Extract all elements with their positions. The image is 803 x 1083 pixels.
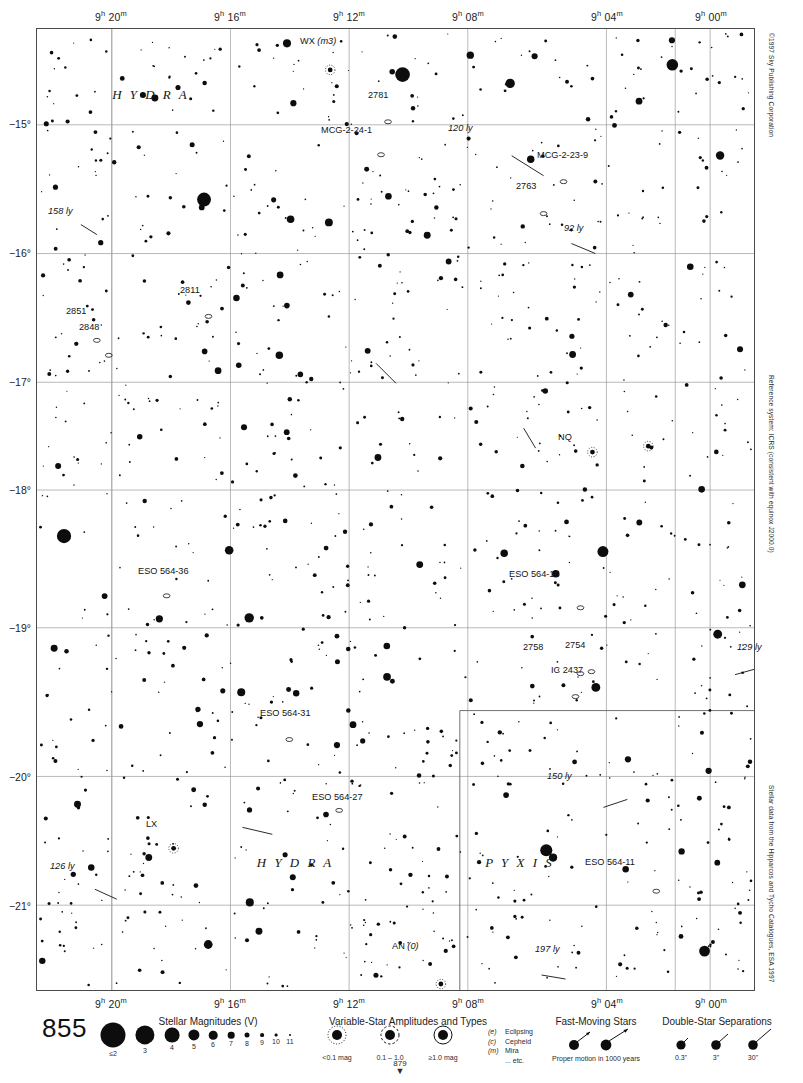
legend-doublestar-symbols xyxy=(668,1027,772,1057)
object-label-distance-17: 129 ly xyxy=(737,642,762,652)
dec-tick-19: −19° xyxy=(0,622,31,634)
legend-variable-symbol-2 xyxy=(432,1024,454,1050)
object-label-galaxy-14: 2758 xyxy=(523,642,543,652)
legend-variable-types: (e)Eclipsing(c)Cepheid(m)Mira... etc. xyxy=(488,1027,533,1065)
legend-magnitude-dot-0 xyxy=(101,1023,126,1048)
object-label-galaxy-2: MCG-2-24-1 xyxy=(321,125,372,135)
legend-doublestar-label-1: 3" xyxy=(713,1054,719,1061)
object-label-variable-star-21: LX xyxy=(146,819,157,829)
annotated-stars xyxy=(81,65,754,989)
dec-tick-15: −15° xyxy=(0,118,31,130)
constellation-name-0: H Y D R A xyxy=(111,87,189,102)
dec-tick-20: −20° xyxy=(0,771,31,783)
object-label-galaxy-12: ESO 564-36 xyxy=(138,566,189,576)
object-label-galaxy-5: 2763 xyxy=(516,181,536,191)
legend-magnitude-dot-9 xyxy=(289,1034,291,1036)
star-chart-frame: H Y D R AH Y D R AP Y X I S xyxy=(36,28,755,991)
constellation-names: H Y D R AH Y D R AP Y X I S xyxy=(111,87,554,870)
dec-tick-21: −21° xyxy=(0,900,31,912)
legend-magnitude-dot-3 xyxy=(188,1029,199,1040)
legend-variable-type-3: ... etc. xyxy=(488,1056,533,1066)
copyright-credit: ©1997 Sky Publishing Corporation xyxy=(768,33,775,137)
legend-fastmoving-symbols xyxy=(562,1027,636,1057)
object-label-galaxy-22: ESO 564-11 xyxy=(585,857,635,867)
legend-magnitude-label-3: 5 xyxy=(192,1043,196,1050)
legend-variable-type-1: (c)Cepheid xyxy=(488,1037,533,1047)
legend-magnitude-label-2: 4 xyxy=(170,1044,174,1051)
next-chart-pointer: 879 ▼ xyxy=(393,1059,406,1075)
legend-magnitude-dot-1 xyxy=(135,1025,154,1044)
starfield: H Y D R AH Y D R AP Y X I S xyxy=(37,29,754,990)
ra-tick-top-04: 9h 04m xyxy=(591,9,623,23)
legend-magnitude-label-7: 9 xyxy=(260,1039,264,1046)
legend-variable-type-0: (e)Eclipsing xyxy=(488,1027,533,1037)
legend-magnitude-dot-8 xyxy=(275,1034,278,1037)
object-label-variable-star-0: WX (m3) xyxy=(300,36,336,46)
legend-doublestar-label-2: 30" xyxy=(748,1054,758,1061)
object-label-galaxy-9: 2851 xyxy=(66,306,86,316)
data-source-credit: Stellar data from the Hipparcos and Tych… xyxy=(768,785,775,982)
legend-magnitude-dot-6 xyxy=(245,1033,250,1038)
dec-tick-18: −18° xyxy=(0,484,31,496)
legend-magnitudes-title: Stellar Magnitudes (V) xyxy=(159,1016,258,1027)
legend-magnitude-label-0: ≤2 xyxy=(109,1050,117,1057)
ra-tick-top-00: 9h 00m xyxy=(695,9,727,23)
legend-magnitude-dot-4 xyxy=(209,1031,218,1040)
object-label-distance-3: 120 ly xyxy=(448,123,473,133)
dec-tick-16: −16° xyxy=(0,247,31,259)
ra-tick-top-16: 9h 16m xyxy=(214,9,246,23)
object-label-galaxy-8: 2811 xyxy=(180,285,200,295)
legend-variable-symbol-1 xyxy=(379,1024,401,1050)
legend-magnitude-label-1: 3 xyxy=(143,1047,147,1054)
ra-tick-top-12: 9h 12m xyxy=(333,9,365,23)
object-label-galaxy-13: ESO 564-15 xyxy=(509,569,560,579)
legend-magnitude-label-4: 6 xyxy=(211,1041,215,1048)
constellation-name-1: H Y D R A xyxy=(256,855,334,870)
ra-tick-top-20: 9h 20m xyxy=(95,9,127,23)
object-label-distance-19: 150 ly xyxy=(547,771,572,781)
legend-fastmoving-caption: Proper motion in 1000 years xyxy=(552,1055,640,1062)
object-label-galaxy-20: ESO 564-27 xyxy=(312,792,363,802)
object-label-galaxy-10: 2848 xyxy=(79,322,99,332)
object-label-galaxy-1: 2781 xyxy=(368,90,388,100)
legend-magnitude-dot-2 xyxy=(165,1028,180,1043)
legend-variable-label-0: <0.1 mag xyxy=(322,1054,351,1061)
legend-fastmoving-title: Fast-Moving Stars xyxy=(555,1016,636,1027)
dec-tick-17: −17° xyxy=(0,376,31,388)
legend-magnitude-label-9: 11 xyxy=(286,1038,293,1045)
legend-doublestar-label-0: 0.3" xyxy=(675,1054,687,1061)
object-label-galaxy-4: MCG-2-23-9 xyxy=(537,150,588,160)
constellation-name-2: P Y X I S xyxy=(484,855,554,870)
stars xyxy=(39,33,752,988)
legend-doublestar-title: Double-Star Separations xyxy=(662,1016,772,1027)
object-label-galaxy-15: 2754 xyxy=(565,640,585,650)
ra-tick-top-08: 9h 08m xyxy=(452,9,484,23)
object-label-galaxy-16: IC 2437 xyxy=(551,665,583,675)
legend-variables-title: Variable-Star Amplitudes and Types xyxy=(329,1016,487,1027)
reference-system-credit: Reference system: ICRS (consistent with … xyxy=(768,375,775,553)
legend-magnitude-label-8: 10 xyxy=(272,1038,280,1045)
legend-magnitude-label-6: 8 xyxy=(245,1040,249,1047)
coordinate-grid xyxy=(37,29,754,990)
object-label-galaxy-18: ESO 564-31 xyxy=(260,708,311,718)
legend-magnitude-label-5: 7 xyxy=(229,1040,233,1047)
down-arrow-icon: ▼ xyxy=(393,1068,406,1075)
legend-variable-label-2: ≥1.0 mag xyxy=(428,1054,457,1061)
object-label-distance-6: 92 ly xyxy=(564,223,583,233)
object-label-distance-23: 126 ly xyxy=(50,861,75,871)
legend-magnitude-dot-5 xyxy=(228,1032,235,1039)
object-label-distance-25: 197 ly xyxy=(535,944,560,954)
object-label-distance-7: 158 ly xyxy=(48,206,73,216)
object-label-variable-star-11: NQ xyxy=(558,432,572,442)
legend-magnitude-dot-7 xyxy=(260,1033,264,1037)
object-label-variable-star-24: AN (0) xyxy=(392,941,419,951)
legend-variable-symbol-0 xyxy=(326,1024,348,1050)
legend-variable-type-2: (m)Mira xyxy=(488,1046,533,1056)
